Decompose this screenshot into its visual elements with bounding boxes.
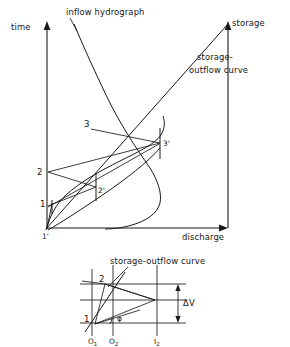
discharge-axis-label: discharge: [182, 232, 224, 242]
hydrology-routing-figure: time inflow hydrograph storage storage- …: [0, 0, 290, 347]
inset-tick-label-I2: I2: [154, 337, 160, 347]
storage-outflow-label-line2: outflow curve: [189, 65, 248, 75]
inset-title: storage-outflow curve: [110, 256, 205, 266]
svg-text:I2: I2: [154, 337, 160, 347]
inset-point-label-1: 1: [84, 314, 89, 324]
point-label-1: 1: [40, 199, 45, 209]
inset-tick-label-O2: O2: [109, 337, 118, 347]
discharge-axis: [47, 225, 228, 232]
tick-I2-subscript: 2: [156, 341, 160, 347]
inset-chord-2-to-I2: [105, 284, 155, 300]
discharge-axis-arrowhead: [219, 225, 228, 232]
point-label-1-prime: 1': [42, 232, 49, 241]
tick-O2-subscript: 2: [115, 341, 119, 347]
storage-outflow-label-line1: storage-: [197, 52, 233, 62]
inset-point-label-2: 2: [99, 274, 104, 284]
storage-axis-label: storage: [232, 18, 265, 28]
outflow-routed-curve: [46, 116, 164, 230]
inflow-label-leader: [70, 18, 77, 31]
deltaV-arrow-up: [175, 284, 180, 291]
svg-text:O2: O2: [109, 337, 118, 347]
inset-deltaV-label: ΔV: [183, 298, 195, 308]
time-axis: [44, 21, 51, 228]
main-plot: time inflow hydrograph storage storage- …: [11, 7, 265, 242]
time-axis-label: time: [11, 22, 31, 32]
figure-container: time inflow hydrograph storage storage- …: [0, 0, 290, 347]
deltaV-arrow-down: [175, 316, 180, 323]
point-label-2: 2: [37, 167, 42, 177]
point-label-3: 3: [84, 119, 89, 129]
inset-plot: storage-outflow curve 2 1 φ ΔV O1 O2 I2: [80, 256, 205, 347]
inflow-hydrograph-label: inflow hydrograph: [66, 7, 145, 17]
inset-deltaV-dimension: [175, 284, 180, 323]
storage-axis-arrowhead: [225, 21, 232, 30]
time-axis-arrowhead: [44, 21, 51, 30]
svg-text:O1: O1: [88, 337, 98, 347]
construction-lines: [48, 129, 160, 207]
inset-angle-label: φ: [117, 314, 122, 323]
point-label-3-prime: 3': [163, 139, 170, 148]
tick-O1-subscript: 1: [94, 341, 98, 347]
inset-tick-label-O1: O1: [88, 337, 98, 347]
point-label-2-prime: 2': [98, 186, 105, 195]
